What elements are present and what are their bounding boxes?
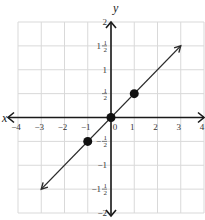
y-tick-label: 12−1	[91, 182, 107, 197]
x-tick-label: −2	[58, 122, 68, 132]
data-point	[83, 137, 92, 146]
x-tick-label: 1	[130, 122, 135, 132]
y-tick-frac-den: 2	[104, 46, 108, 54]
data-point	[130, 89, 139, 98]
y-tick-label: 1	[103, 65, 108, 75]
coordinate-plane: −4−3−2−101234212111212−−112−1−2 x y	[0, 0, 205, 220]
y-axis-label: y	[112, 1, 119, 15]
y-tick-whole: −	[96, 136, 101, 146]
y-tick-value: −2	[97, 208, 107, 218]
y-tick-frac-den: 2	[104, 141, 108, 149]
y-tick-value: 1	[103, 65, 108, 75]
y-tick-label: 12	[102, 87, 108, 102]
y-tick-whole: 1	[97, 41, 102, 51]
x-axis-label: x	[1, 111, 8, 125]
y-tick-label: 2	[103, 17, 108, 27]
y-tick-value: −1	[97, 160, 107, 170]
y-tick-frac-den: 2	[104, 94, 108, 102]
x-tick-label: 2	[153, 122, 158, 132]
x-tick-label: 0	[113, 122, 118, 132]
data-point	[107, 113, 116, 122]
y-tick-label: −1	[97, 160, 107, 170]
y-tick-label: −2	[97, 208, 107, 218]
x-tick-label: −1	[81, 122, 91, 132]
x-tick-label: 3	[177, 122, 182, 132]
y-tick-whole: −1	[91, 184, 101, 194]
y-tick-frac-den: 2	[104, 189, 108, 197]
x-tick-label: −3	[34, 122, 44, 132]
x-tick-label: −4	[11, 122, 21, 132]
x-tick-label: 4	[200, 122, 205, 132]
y-tick-value: 2	[103, 17, 108, 27]
